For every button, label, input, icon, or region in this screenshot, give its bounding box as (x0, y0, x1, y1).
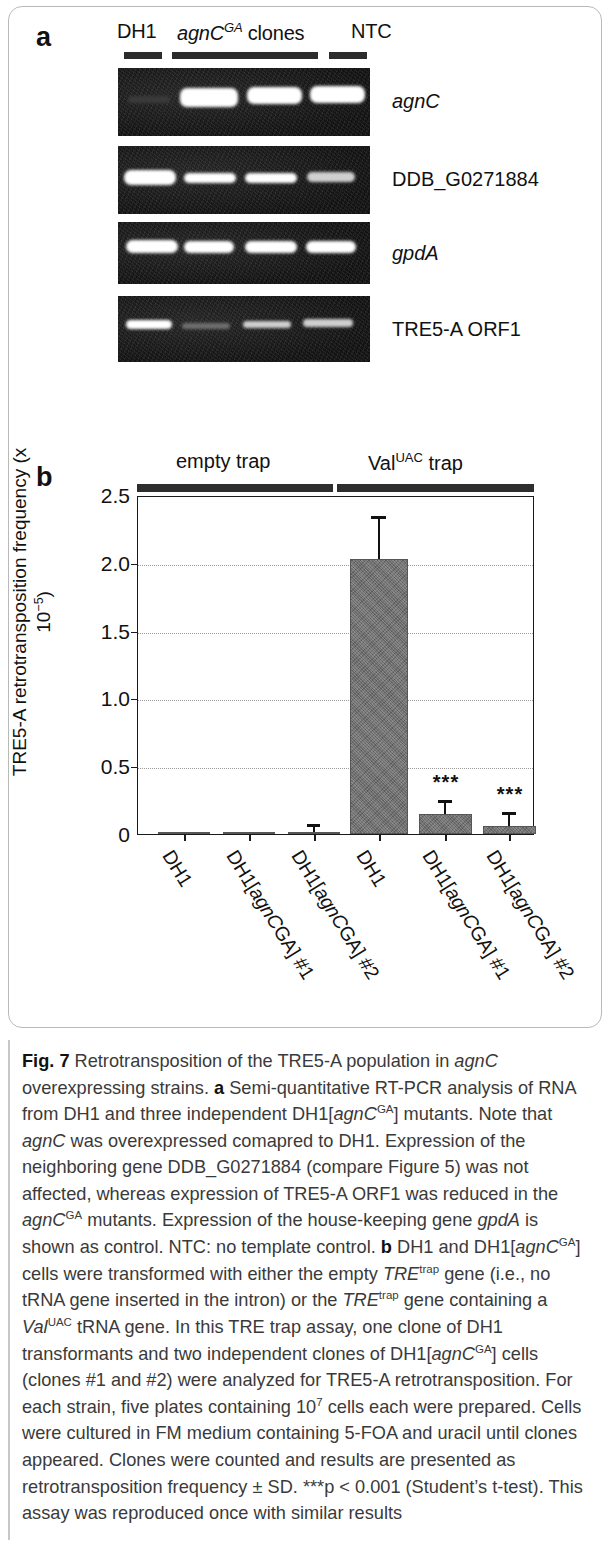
caption-sup: trap (379, 1289, 399, 1301)
caption-panel-a-marker: a (214, 1078, 224, 1098)
gel-panel-gpda (118, 222, 370, 284)
caption-sup: trap (419, 1263, 439, 1275)
bar-val-clone2[interactable] (483, 826, 536, 834)
caption-italic: agnC (22, 1211, 65, 1231)
group-label-val-main: Val (368, 452, 395, 474)
lane-bracket-dh1 (124, 52, 162, 59)
x-tick-label-empty-dh1: DH1 (157, 846, 197, 891)
caption-italic: gpdA (477, 1211, 519, 1231)
gel-band (126, 320, 172, 329)
caption-seg: gene containing a (399, 1290, 548, 1310)
error-bar-cap (371, 516, 386, 519)
gel-band (306, 241, 356, 253)
caption-sup: GA (65, 1209, 82, 1221)
group-label-val-uac-trap: ValUAC trap (368, 450, 463, 475)
gel-band (184, 173, 236, 183)
caption-panel-b-marker: b (381, 1237, 392, 1257)
caption-sup: GA (475, 1343, 492, 1355)
y-tick-label: 2.5 (101, 484, 130, 508)
gel-background-noise (118, 296, 370, 362)
x-label-text: DH1 (352, 846, 391, 890)
bar-val-clone1[interactable] (419, 814, 472, 834)
y-axis-title-close: ) (33, 591, 54, 597)
plot-frame: *** *** (137, 496, 534, 835)
y-tick-label: 0 (118, 823, 130, 847)
caption-sup: GA (559, 1236, 576, 1248)
x-axis-tick-labels: DH1 DH1[agnCGA] #1 DH1[agnCGA] #2 DH1 DH… (137, 840, 537, 1010)
gel-panel-agnc (118, 68, 370, 136)
caption-seg: overexpressing strains. (22, 1078, 214, 1098)
caption-sup: UAC (48, 1316, 72, 1328)
gel-row-label-agnc: agnC (392, 90, 440, 113)
caption-italic: agnC (22, 1131, 65, 1151)
caption-seg: mutants. Expression of the house-keeping… (82, 1211, 477, 1231)
group-label-val-superscript: UAC (395, 450, 422, 465)
gel-header-dh1: DH1 (117, 20, 156, 43)
bars-layer: *** *** (138, 497, 533, 834)
caption-italic: TRE (383, 1264, 419, 1284)
x-label-text: DH1 (158, 846, 197, 890)
bar-chart: empty trap ValUAC trap TRE5-A retrotrans… (0, 440, 610, 1040)
y-axis-tick-labels: 0 0.5 1.0 1.5 2.0 2.5 (64, 496, 130, 835)
gel-band (182, 323, 230, 329)
caption-italic: TRE (342, 1290, 378, 1310)
caption-sup: GA (377, 1103, 394, 1115)
caption-seg: DH1 and DH1[ (392, 1237, 515, 1257)
lane-bracket-clones (172, 52, 318, 59)
gel-band (243, 321, 291, 328)
error-bar-cap (438, 800, 452, 803)
gel-band (245, 241, 297, 253)
group-bracket-empty-trap (137, 484, 333, 492)
gel-band (180, 88, 238, 107)
panel-a-letter: a (36, 22, 51, 53)
error-bar-stem (378, 518, 380, 559)
bar-val-dh1[interactable] (350, 559, 408, 834)
gel-band (128, 96, 170, 103)
gel-panel-ddb-g0271884 (118, 146, 370, 214)
gel-header-agnc-clones: agnCGA clones (177, 20, 304, 45)
lane-bracket-ntc (329, 52, 367, 59)
gel-background-noise (118, 222, 370, 284)
gel-band (307, 172, 355, 182)
error-bar-cap (502, 812, 516, 815)
gel-header-agnc-superscript: GA (224, 20, 242, 35)
gel-band (310, 86, 365, 103)
x-tick-label-val-dh1: DH1 (351, 846, 391, 891)
group-label-val-tail: trap (423, 452, 463, 474)
gel-band (303, 319, 353, 327)
significance-marker-clone1: *** (433, 771, 459, 794)
error-bar-stem (444, 802, 446, 814)
caption-seg: was overexpressed comapred to DH1. Expre… (22, 1131, 558, 1204)
group-label-empty-trap: empty trap (176, 450, 270, 473)
gel-band (184, 241, 234, 253)
caption-italic: Val (22, 1317, 48, 1337)
caption-italic: agnC (333, 1104, 376, 1124)
gel-row-label-ddb: DDB_G0271884 (392, 168, 539, 191)
caption-italic: agnC (431, 1344, 474, 1364)
gel-band (245, 173, 297, 183)
gel-panel-tre5a-orf1 (118, 296, 370, 362)
y-tick-label: 1.5 (101, 620, 130, 644)
gel-header-ntc: NTC (351, 20, 392, 43)
gel-row-label-gpda: gpdA (392, 242, 439, 265)
figure-caption: Fig. 7 Retrotransposition of the TRE5-A … (22, 1048, 594, 1527)
y-tick-label: 0.5 (101, 755, 130, 779)
gel-header-agnc-italic: agnC (177, 22, 224, 44)
error-bar-cap (307, 824, 320, 827)
caption-fig-label: Fig. 7 (22, 1051, 70, 1071)
group-bracket-val-trap (337, 484, 534, 492)
gel-column-headers: DH1 agnCGA clones NTC (115, 20, 415, 50)
y-axis-title-text: TRE5-A retrotransposition frequency (x 1… (9, 448, 54, 776)
caption-seg: ] mutants. Note that (394, 1104, 553, 1124)
y-tick-label: 1.0 (101, 687, 130, 711)
y-axis-title: TRE5-A retrotransposition frequency (x 1… (8, 447, 56, 777)
caption-italic: agnC (515, 1237, 558, 1257)
gel-band (126, 240, 178, 253)
y-tick-label: 2.0 (101, 552, 130, 576)
caption-seg: Retrotransposition of the TRE5-A populat… (70, 1051, 455, 1071)
significance-marker-clone2: *** (497, 783, 523, 806)
gel-band (247, 87, 302, 104)
y-axis-title-exponent: −5 (32, 597, 46, 611)
gel-row-label-tre5a: TRE5-A ORF1 (392, 318, 521, 341)
gel-band (124, 170, 176, 185)
